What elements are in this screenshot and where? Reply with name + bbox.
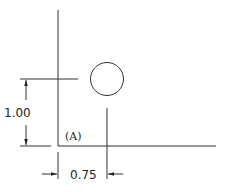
technical-drawing: 1.00 0.75 (A): [0, 0, 227, 192]
vertical-dimension-value: 1.00: [4, 106, 31, 120]
datum-label: (A): [65, 130, 82, 143]
horizontal-dimension-value: 0.75: [70, 168, 97, 182]
hole-circle: [91, 63, 124, 96]
